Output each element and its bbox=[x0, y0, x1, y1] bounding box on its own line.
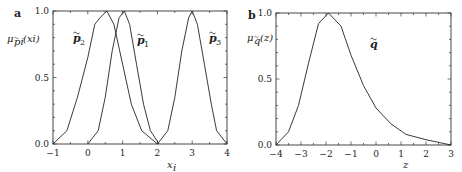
curve-label: p2 bbox=[73, 32, 85, 47]
curve-label: p3 bbox=[209, 32, 221, 47]
y-tick-label: 1.0 bbox=[35, 6, 50, 16]
x-axis-label-a: xi bbox=[167, 159, 176, 172]
ticks-b bbox=[276, 13, 451, 145]
figure: a μpi(xi) −101234 0.00.51.0 p2p1p3 xi b … bbox=[0, 0, 462, 172]
curves-b bbox=[276, 13, 451, 145]
x-tick-label: 3 bbox=[448, 149, 454, 159]
panel-letter-a: a bbox=[14, 7, 21, 20]
y-axis-label-b: μq(z) bbox=[247, 32, 273, 46]
y-tick-label: 0.0 bbox=[258, 140, 273, 150]
y-tick-labels-a: 0.00.51.0 bbox=[35, 6, 50, 149]
ylabel-arg: (xi) bbox=[23, 33, 40, 44]
x-tick-label: 0 bbox=[373, 149, 379, 159]
y-tick-label: 0.0 bbox=[35, 139, 50, 149]
x-tick-label: 2 bbox=[423, 149, 429, 159]
x-tick-label: 4 bbox=[224, 148, 230, 158]
curves-a bbox=[53, 11, 227, 144]
plot-frame-b bbox=[276, 13, 451, 145]
x-tick-label: −4 bbox=[269, 149, 283, 159]
curve-label-sub: 1 bbox=[144, 40, 149, 49]
curve-q̃ bbox=[276, 13, 451, 145]
x-tick-labels-a: −101234 bbox=[46, 148, 230, 158]
x-tick-label: 3 bbox=[189, 148, 195, 158]
y-tick-label: 1.0 bbox=[258, 8, 273, 18]
curve-p̃1 bbox=[88, 11, 159, 144]
panel-letter-b: b bbox=[248, 9, 256, 22]
x-tick-label: −2 bbox=[319, 149, 332, 159]
panel-b: b μq(z) −4−3−2−10123 0.00.51.0 q z bbox=[247, 8, 454, 170]
curve-label-sub: 3 bbox=[216, 38, 221, 47]
ticks-a bbox=[53, 11, 227, 144]
x-tick-label: 1 bbox=[120, 148, 126, 158]
x-tick-label: 1 bbox=[398, 149, 404, 159]
ylabel-mu: μ bbox=[7, 33, 14, 44]
x-tick-label: −3 bbox=[294, 149, 308, 159]
x-tick-label: −1 bbox=[344, 149, 357, 159]
y-tick-labels-b: 0.00.51.0 bbox=[258, 8, 273, 150]
xlabel-main: z bbox=[402, 159, 409, 170]
curve-label-sub: 2 bbox=[80, 38, 85, 47]
ylabel-mu: μ bbox=[247, 32, 254, 43]
x-tick-label: 0 bbox=[85, 148, 91, 158]
panel-a: a μpi(xi) −101234 0.00.51.0 p2p1p3 xi bbox=[7, 6, 230, 172]
ylabel-arg: (z) bbox=[260, 32, 273, 43]
curve-labels-b: q bbox=[370, 38, 378, 51]
curve-p̃2 bbox=[53, 11, 157, 144]
y-axis-label-a: μpi(xi) bbox=[7, 33, 40, 47]
plot-frame-a bbox=[53, 11, 227, 144]
x-axis-label-b: z bbox=[402, 159, 409, 170]
curve-label: p1 bbox=[137, 34, 149, 49]
x-tick-label: −1 bbox=[46, 148, 59, 158]
curve-p̃3 bbox=[157, 11, 227, 144]
y-tick-label: 0.5 bbox=[35, 73, 50, 83]
x-tick-label: 2 bbox=[155, 148, 161, 158]
xlabel-sub: i bbox=[173, 162, 176, 172]
y-tick-label: 0.5 bbox=[258, 74, 273, 84]
x-tick-labels-b: −4−3−2−10123 bbox=[269, 149, 454, 159]
curve-label: q bbox=[370, 38, 378, 51]
